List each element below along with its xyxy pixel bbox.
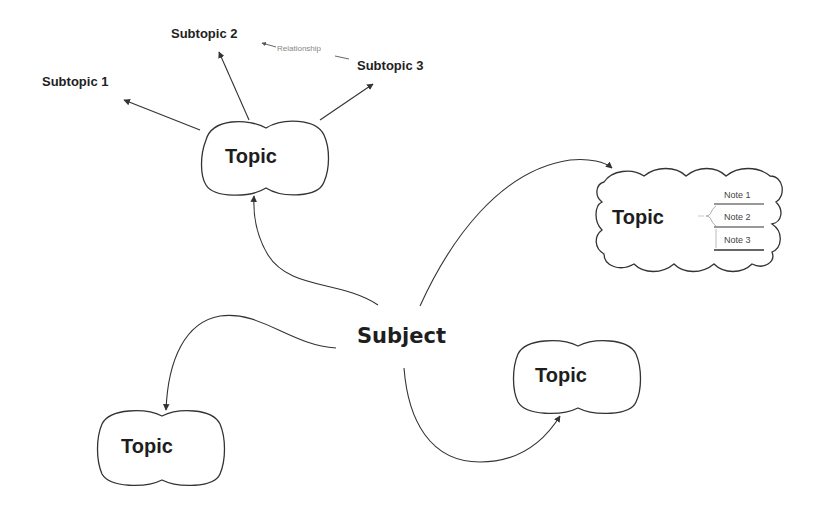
connector-subject-to-topic-top-left xyxy=(254,196,378,305)
connector-topic-to-subtopic-3 xyxy=(320,84,373,120)
subtopic-2-label[interactable]: Subtopic 2 xyxy=(171,26,237,41)
mind-map-canvas xyxy=(0,0,819,505)
topic-bottom-left-label[interactable]: Topic xyxy=(121,435,173,458)
note-1[interactable]: Note 1 xyxy=(724,190,751,200)
connector-subject-to-topic-right xyxy=(420,159,612,306)
subject-label[interactable]: Subject xyxy=(357,324,446,348)
topic-bottom-right-label[interactable]: Topic xyxy=(535,364,587,387)
subtopic-1-label[interactable]: Subtopic 1 xyxy=(42,74,108,89)
connector-subject-to-topic-bottom-left xyxy=(166,315,336,410)
note-3[interactable]: Note 3 xyxy=(724,235,751,245)
relationship-connector-arrow xyxy=(262,43,276,47)
relationship-label[interactable]: Relationship xyxy=(277,44,321,53)
subtopic-3-label[interactable]: Subtopic 3 xyxy=(357,58,423,73)
topic-top-left-label[interactable]: Topic xyxy=(225,145,277,168)
relationship-connector xyxy=(335,56,349,59)
topic-right-label[interactable]: Topic xyxy=(612,206,664,229)
note-2[interactable]: Note 2 xyxy=(724,212,751,222)
connector-topic-to-subtopic-1 xyxy=(124,100,200,130)
connector-topic-to-subtopic-2 xyxy=(219,52,249,120)
